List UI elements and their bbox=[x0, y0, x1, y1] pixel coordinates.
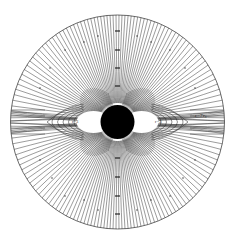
central-body bbox=[101, 105, 135, 139]
right-inner-label: r=3 bbox=[155, 119, 162, 124]
left-inner-label: r=3 bbox=[72, 119, 79, 124]
right-radius-label: r=7r₀ bbox=[195, 113, 207, 118]
field-line-diagram bbox=[0, 0, 235, 241]
